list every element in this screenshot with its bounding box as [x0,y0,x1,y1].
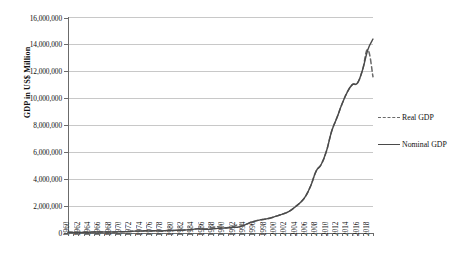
legend-item-nominal-gdp: Nominal GDP [378,140,449,150]
series-line-real-gdp [68,50,373,233]
legend-label-real-gdp: Real GDP [402,113,434,122]
legend-label-nominal-gdp: Nominal GDP [402,140,447,149]
legend-swatch-dashed-icon [378,117,400,118]
chart-legend: Real GDP Nominal GDP [378,113,449,167]
series-line-nominal-gdp [68,39,373,232]
legend-swatch-solid-icon [378,144,400,145]
gdp-line-chart: GDP in US$ Million 02,000,0004,000,0006,… [0,0,449,274]
legend-item-real-gdp: Real GDP [378,113,449,123]
